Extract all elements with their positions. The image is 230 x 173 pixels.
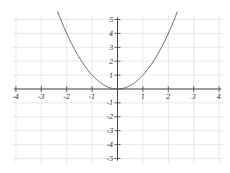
x-tick-label: -4 [12,93,19,101]
y-tick-label: -4 [107,141,114,149]
parabola-plot: -4-3-2-11234-5-4-3-2-112345 [0,0,230,173]
x-tick-label: -2 [63,93,70,101]
y-tick-label: 5 [109,16,114,24]
x-tick-label: 4 [216,93,221,101]
y-tick-label: 1 [109,72,113,80]
y-tick-label: 3 [109,44,114,52]
y-tick-label: -5 [107,155,114,163]
y-tick-label: 2 [108,58,114,66]
y-tick-label: 4 [108,30,113,38]
y-tick-label: -1 [107,99,114,107]
x-tick-label: 2 [165,93,171,101]
y-tick-label: -3 [107,127,114,135]
x-tick-label: -1 [89,93,96,101]
x-tick-label: -3 [38,93,45,101]
x-tick-label: 3 [191,93,196,101]
y-tick-label: -2 [107,113,114,121]
x-tick-label: 1 [141,93,145,101]
